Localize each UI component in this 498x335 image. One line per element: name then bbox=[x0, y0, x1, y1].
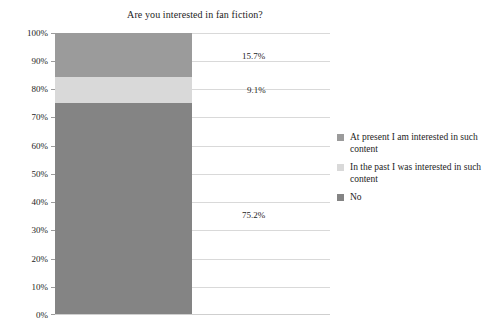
chart-title: Are you interested in fan fiction? bbox=[55, 9, 335, 20]
stacked-bar bbox=[55, 33, 192, 314]
legend-item-at-present-interested[interactable]: At present I am interested in such conte… bbox=[337, 131, 495, 155]
data-label-at-present: 15.7% bbox=[242, 52, 265, 61]
legend-item-in-past-interested[interactable]: In the past I was interested in such con… bbox=[337, 161, 495, 185]
y-tick-label: 60% bbox=[14, 142, 48, 151]
y-tick-label: 80% bbox=[14, 85, 48, 94]
legend-item-label: At present I am interested in such conte… bbox=[350, 131, 495, 155]
data-label-no: 75.2% bbox=[242, 211, 265, 220]
legend-swatch-icon bbox=[337, 164, 344, 171]
y-tick-label: 100% bbox=[14, 29, 48, 38]
legend-item-label: No bbox=[350, 191, 362, 203]
bar-segment-no[interactable] bbox=[55, 103, 192, 314]
chart-legend: At present I am interested in such conte… bbox=[337, 131, 495, 209]
data-label-in-past: 9.1% bbox=[247, 86, 266, 95]
bar-segment-at-present-interested[interactable] bbox=[55, 33, 192, 77]
y-tick-label: 20% bbox=[14, 255, 48, 264]
gridline-baseline bbox=[55, 314, 330, 315]
y-tick-label: 10% bbox=[14, 283, 48, 292]
bar-segment-in-past-interested[interactable] bbox=[55, 77, 192, 103]
y-tick-label: 30% bbox=[14, 226, 48, 235]
y-tick-label: 40% bbox=[14, 198, 48, 207]
y-tick-label: 90% bbox=[14, 57, 48, 66]
y-tick-label: 70% bbox=[14, 113, 48, 122]
legend-item-label: In the past I was interested in such con… bbox=[350, 161, 495, 185]
legend-swatch-icon bbox=[337, 194, 344, 201]
legend-item-no[interactable]: No bbox=[337, 191, 495, 203]
y-axis-tick-labels: 100% 90% 80% 70% 60% 50% 40% 30% 20% 10%… bbox=[8, 0, 48, 335]
plot-area: 15.7% 9.1% 75.2% bbox=[55, 33, 330, 314]
stacked-bar-chart: Are you interested in fan fiction? 100% … bbox=[0, 0, 498, 335]
y-tick-label: 50% bbox=[14, 170, 48, 179]
legend-swatch-icon bbox=[337, 134, 344, 141]
y-tick-label: 0% bbox=[14, 311, 48, 320]
